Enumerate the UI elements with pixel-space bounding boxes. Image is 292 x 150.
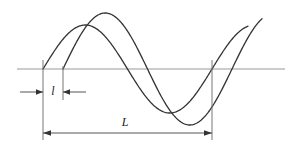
dimension-label-l: l [51,84,55,98]
dimension-L: L [43,115,212,136]
dimension-l: l [20,84,86,98]
wave-diagram-figure: l L [0,0,292,150]
dimension-L-left-arrowhead [43,130,51,136]
dimension-l-right-arrowhead [63,89,70,95]
wave-diagram-canvas: l L [0,0,292,150]
dimension-l-left-arrowhead [36,89,43,95]
dimension-L-right-arrowhead [204,130,212,136]
dimension-label-L: L [121,115,129,129]
